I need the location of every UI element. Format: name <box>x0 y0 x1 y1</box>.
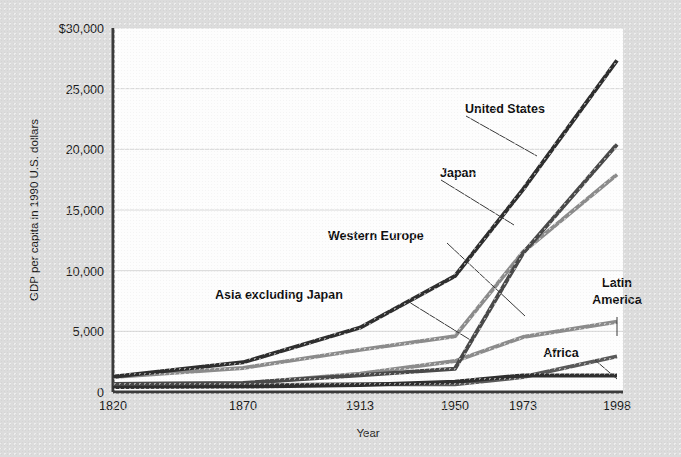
y-tick-10000: 10,000 <box>66 265 104 279</box>
chart-figure: 05,00010,00015,00020,00025,000$30,000 18… <box>0 0 681 457</box>
x-tick-1820: 1820 <box>99 399 127 413</box>
x-axis-tick-labels: 182018701913195019731998 <box>99 399 631 413</box>
x-tick-1973: 1973 <box>509 399 537 413</box>
y-tick-30000: $30,000 <box>59 22 104 36</box>
series-label-western-europe: Western Europe <box>328 229 424 243</box>
gdp-per-capita-line-chart: 05,00010,00015,00020,00025,000$30,000 18… <box>0 0 681 457</box>
series-label-japan: Japan <box>440 166 476 180</box>
y-tick-20000: 20,000 <box>66 143 104 157</box>
y-tick-0: 0 <box>97 386 104 400</box>
series-label-united-states: United States <box>465 102 545 116</box>
series-label-latin-america-line2: America <box>592 293 642 307</box>
y-axis-tick-labels: 05,00010,00015,00020,00025,000$30,000 <box>59 22 104 400</box>
y-tick-15000: 15,000 <box>66 204 104 218</box>
series-label-africa: Africa <box>543 346 579 360</box>
x-tick-1998: 1998 <box>603 399 631 413</box>
x-tick-1950: 1950 <box>441 399 469 413</box>
y-tick-5000: 5,000 <box>73 325 104 339</box>
x-axis-title: Year <box>356 427 379 439</box>
series-label-asia-excluding-japan: Asia excluding Japan <box>215 288 343 302</box>
x-tick-1913: 1913 <box>346 399 374 413</box>
y-axis-title: GDP per capita in 1990 U.S. dollars <box>28 119 40 301</box>
x-tick-1870: 1870 <box>229 399 257 413</box>
series-label-latin-america-line1: Latin <box>602 276 632 290</box>
y-tick-25000: 25,000 <box>66 83 104 97</box>
